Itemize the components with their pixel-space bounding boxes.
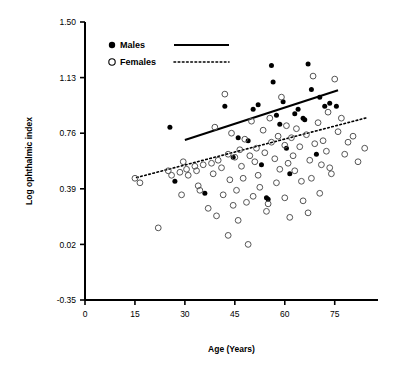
data-point-males bbox=[296, 107, 301, 112]
x-tick-label: 75 bbox=[330, 309, 340, 319]
legend-label-females: Females bbox=[120, 57, 156, 67]
x-axis-title: Age (Years) bbox=[208, 344, 255, 354]
data-point-males bbox=[287, 171, 292, 176]
data-point-males bbox=[256, 102, 261, 107]
x-tick-label: 0 bbox=[83, 309, 88, 319]
x-tick-label: 30 bbox=[180, 309, 190, 319]
x-tick-label: 15 bbox=[130, 309, 140, 319]
legend-label-males: Males bbox=[120, 40, 145, 50]
scatter-plot-figure: -0.350.020.390.761.131.5001530456075Age … bbox=[0, 0, 393, 367]
data-point-males bbox=[269, 63, 274, 68]
y-tick-label: 1.13 bbox=[59, 73, 76, 83]
y-axis-title: Log ophthalmic index bbox=[24, 117, 34, 205]
y-tick-label: 0.76 bbox=[59, 128, 76, 138]
y-tick-label: 0.02 bbox=[59, 240, 76, 250]
x-tick-label: 45 bbox=[230, 309, 240, 319]
y-tick-label: 0.39 bbox=[59, 184, 76, 194]
y-tick-label: 1.50 bbox=[59, 17, 76, 27]
data-point-males bbox=[317, 95, 322, 100]
data-point-males bbox=[327, 101, 332, 106]
data-point-males bbox=[167, 125, 172, 130]
data-point-males bbox=[274, 113, 279, 118]
data-point-males bbox=[271, 80, 276, 85]
data-point-males bbox=[172, 179, 177, 184]
data-point-males bbox=[334, 104, 339, 109]
x-tick-label: 60 bbox=[280, 309, 290, 319]
data-point-males bbox=[277, 122, 282, 127]
data-point-males bbox=[202, 191, 207, 196]
data-point-males bbox=[251, 107, 256, 112]
data-point-males bbox=[259, 162, 264, 167]
data-point-males bbox=[236, 135, 241, 140]
data-point-males bbox=[309, 87, 314, 92]
data-point-males bbox=[292, 111, 297, 116]
data-point-males bbox=[314, 152, 319, 157]
y-tick-label: -0.35 bbox=[57, 295, 77, 305]
data-point-males bbox=[322, 104, 327, 109]
data-point-males bbox=[306, 62, 311, 67]
data-point-males bbox=[302, 117, 307, 122]
legend-marker-males bbox=[109, 42, 115, 48]
data-point-males bbox=[222, 104, 227, 109]
